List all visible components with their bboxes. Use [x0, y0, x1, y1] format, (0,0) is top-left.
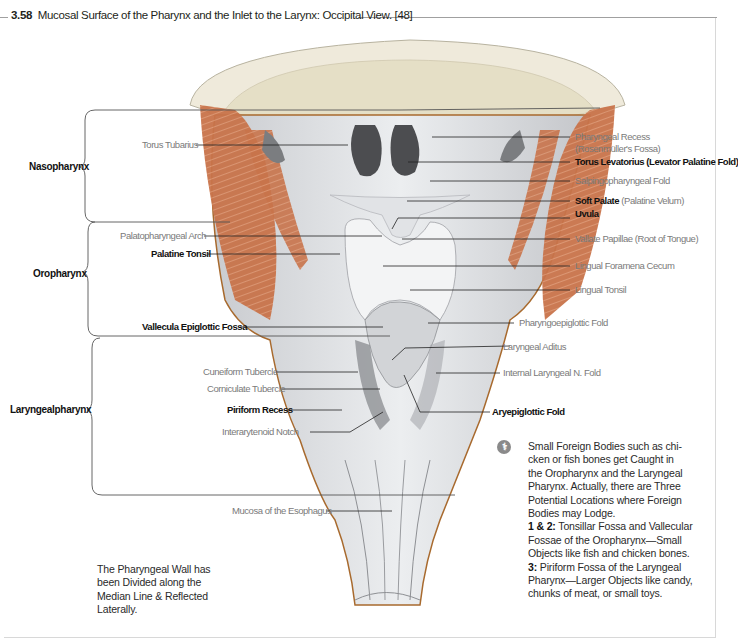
clinical-item-label: 3: — [528, 561, 537, 573]
label-lingual-tonsil: Lingual Tonsil — [575, 284, 626, 296]
note-line: The Pharyngeal Wall has — [97, 563, 210, 576]
note-clinical: Small Foreign Bodies such as chi- cken o… — [528, 440, 693, 601]
clinical-line: Objects like fish and chicken bones. — [528, 547, 693, 560]
label-cuneiform-tubercle: Cuneiform Tubercle — [203, 366, 278, 378]
clinical-line: the Oropharynx and the Laryngeal — [528, 467, 693, 480]
note-pharyngeal-wall: The Pharyngeal Wall has been Divided alo… — [97, 563, 210, 617]
label-vallate-papillae: Vallate Papillae (Root of Tongue) — [575, 233, 698, 245]
clinical-line: Bodies may Lodge. — [528, 507, 693, 520]
note-line: Laterally. — [97, 603, 210, 616]
label-palatopharyngeal-arch: Palatopharyngeal Arch — [120, 230, 206, 242]
label-rosenmuller-fossa: (Rosenmüller's Fossa) — [575, 143, 660, 155]
clinical-line: Potential Locations where Foreign — [528, 494, 693, 507]
clinical-line: cken or fish bones get Caught in — [528, 453, 693, 466]
label-aryepiglottic-fold: Aryepiglottic Fold — [492, 406, 565, 418]
label-laryngeal-aditus: Laryngeal Aditus — [503, 341, 566, 353]
clinical-item-1: 1 & 2: Tonsillar Fossa and Vallecular — [528, 520, 693, 533]
label-piriform-recess: Piriform Recess — [227, 404, 293, 416]
label-soft-palate-suffix: (Palatine Velum) — [619, 195, 684, 206]
clinical-line: Small Foreign Bodies such as chi- — [528, 440, 693, 453]
clinical-line: Fossae of the Oropharynx—Small — [528, 534, 693, 547]
region-oropharynx: Oropharynx — [33, 268, 87, 279]
label-palatine-tonsil: Palatine Tonsil — [151, 248, 211, 260]
label-interarytenoid-notch: Interarytenoid Notch — [222, 426, 299, 438]
clinical-item-label: 1 & 2: — [528, 520, 556, 532]
label-torus-tubarius: Torus Tubarius — [142, 139, 198, 151]
label-soft-palate-main: Soft Palate — [575, 195, 619, 206]
label-vallecula-epiglottic-fossa: Vallecula Epiglottic Fossa — [142, 321, 247, 333]
label-mucosa-esophagus: Mucosa of the Esophagus — [232, 505, 332, 517]
label-soft-palate: Soft Palate (Palatine Velum) — [575, 195, 684, 207]
clinical-line: Tonsillar Fossa and Vallecular — [556, 520, 693, 532]
clinical-line: Pharynx—Larger Objects like candy, — [528, 574, 693, 587]
region-nasopharynx: Nasopharynx — [29, 161, 89, 172]
label-torus-levatorius: Torus Levatorius (Levator Palatine Fold) — [575, 156, 738, 168]
clinical-note-icon: ⚕ — [497, 440, 511, 454]
label-pharyngeal-recess: Pharyngeal Recess — [575, 131, 650, 143]
clinical-line: chunks of meat, or small toys. — [528, 587, 693, 600]
label-corniculate-tubercle: Corniculate Tubercle — [207, 383, 285, 395]
label-salpingopharyngeal-fold: Salpingopharyngeal Fold — [575, 175, 670, 187]
label-pharyngoepiglottic-fold: Pharyngoepiglottic Fold — [519, 317, 608, 329]
region-laryngealpharynx: Laryngealpharynx — [10, 404, 91, 415]
note-line: Median Line & Reflected — [97, 590, 210, 603]
label-uvula: Uvula — [575, 208, 599, 220]
label-lingual-foramena-cecum: Lingual Foramena Cecum — [575, 260, 674, 272]
label-internal-laryngeal-fold: Internal Laryngeal N. Fold — [503, 367, 601, 379]
right-choana — [391, 125, 420, 176]
clinical-item-2: 3: Piriform Fossa of the Laryngeal — [528, 561, 693, 574]
clinical-line: Pharynx. Actually, there are Three — [528, 480, 693, 493]
clinical-line: Piriform Fossa of the Laryngeal — [537, 561, 681, 573]
note-line: been Divided along the — [97, 576, 210, 589]
